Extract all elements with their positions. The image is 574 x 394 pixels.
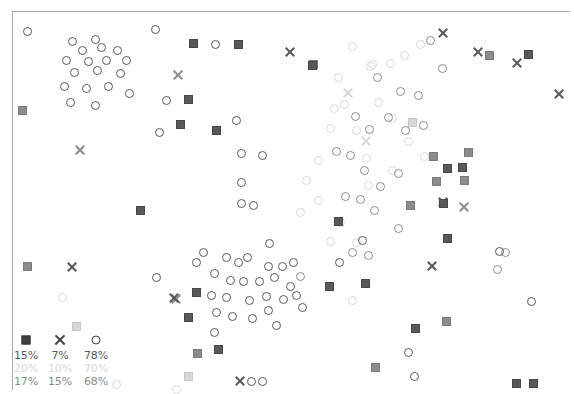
scatter-point-circle: [292, 291, 301, 300]
scatter-point-square: [176, 120, 185, 129]
scatter-point-circle: [289, 258, 298, 267]
scatter-point-circle: [314, 156, 323, 165]
scatter-point-square: [234, 40, 243, 49]
scatter-point-circle: [410, 372, 419, 381]
legend-value: 68%: [81, 375, 111, 388]
scatter-point-circle: [341, 192, 350, 201]
scatter-point-square: [458, 163, 467, 172]
scatter-point-cross: [235, 376, 246, 387]
legend-value: 7%: [45, 349, 75, 362]
scatter-point-circle: [278, 262, 287, 271]
scatter-point-circle: [348, 296, 357, 305]
open-circle-icon: [92, 336, 101, 345]
legend-value: 70%: [81, 362, 111, 375]
scatter-point-circle: [362, 154, 371, 163]
scatter-point-square: [460, 176, 469, 185]
scatter-point-square: [371, 363, 380, 372]
scatter-point-circle: [396, 87, 405, 96]
scatter-point-square: [189, 39, 198, 48]
scatter-point-circle: [212, 308, 221, 317]
scatter-point-cross: [427, 261, 438, 272]
scatter-point-cross: [459, 202, 470, 213]
scatter-point-circle: [386, 59, 395, 68]
scatter-point-square: [193, 349, 202, 358]
scatter-point-circle: [78, 46, 87, 55]
scatter-point-circle: [334, 73, 343, 82]
scatter-point-square: [429, 152, 438, 161]
scatter-point-square: [485, 51, 494, 60]
scatter-point-circle: [286, 282, 295, 291]
scatter-point-square: [411, 324, 420, 333]
scatter-point-circle: [265, 239, 274, 248]
scatter-point-circle: [222, 293, 231, 302]
scatter-point-circle: [192, 258, 201, 267]
scatter-point-square: [214, 345, 223, 354]
scatter-point-cross: [67, 262, 78, 273]
scatter-point-circle: [70, 68, 79, 77]
x-cross-icon: [54, 334, 66, 346]
scatter-point-circle: [351, 112, 360, 121]
scatter-point-square: [334, 217, 343, 226]
legend-value: 17%: [11, 375, 41, 388]
scatter-point-circle: [210, 328, 219, 337]
scatter-point-circle: [116, 69, 125, 78]
scatter-point-cross: [361, 136, 372, 147]
legend-value: 20%: [11, 362, 41, 375]
scatter-point-circle: [84, 57, 93, 66]
scatter-point-cross: [512, 58, 523, 69]
scatter-point-circle: [400, 51, 409, 60]
scatter-point-square: [432, 177, 441, 186]
scatter-point-circle: [222, 253, 231, 262]
scatter-point-circle: [102, 56, 111, 65]
scatter-point-circle: [245, 296, 254, 305]
scatter-point-circle: [199, 248, 208, 257]
scatter-point-circle: [272, 321, 281, 330]
scatter-point-circle: [404, 348, 413, 357]
scatter-point-circle: [373, 73, 382, 82]
scatter-point-circle: [68, 37, 77, 46]
scatter-point-square: [18, 106, 27, 115]
scatter-point-circle: [527, 297, 536, 306]
scatter-point-circle: [207, 291, 216, 300]
scatter-point-circle: [374, 98, 383, 107]
scatter-point-circle: [125, 89, 134, 98]
scatter-point-circle: [226, 276, 235, 285]
scatter-point-circle: [314, 196, 323, 205]
legend-row-dark: 15%7%78%: [12, 349, 132, 362]
scatter-point-circle: [376, 182, 385, 191]
scatter-point-circle: [493, 265, 502, 274]
scatter-point-circle: [228, 312, 237, 321]
scatter-point-circle: [335, 258, 344, 267]
scatter-point-circle: [302, 176, 311, 185]
legend-marker-filled-square: [13, 331, 39, 349]
scatter-point-square: [23, 262, 32, 271]
scatter-point-square: [361, 279, 370, 288]
scatter-point-circle: [296, 272, 305, 281]
scatter-point-circle: [264, 306, 273, 315]
scatter-point-cross: [554, 89, 565, 100]
scatter-point-circle: [346, 151, 355, 160]
legend-marker-open-circle: [83, 331, 109, 349]
legend-value: 10%: [45, 362, 75, 375]
scatter-point-circle: [210, 269, 219, 278]
scatter-point-circle: [113, 46, 122, 55]
legend-row-light: 20%10%70%: [12, 362, 132, 375]
scatter-point-square: [406, 201, 415, 210]
scatter-point-circle: [60, 82, 69, 91]
legend: 15%7%78%20%10%70%17%15%68%: [12, 331, 132, 388]
scatter-point-circle: [332, 147, 341, 156]
scatter-point-circle: [296, 208, 305, 217]
legend-marker-row: [12, 331, 132, 349]
scatter-point-cross: [173, 70, 184, 81]
scatter-point-circle: [419, 121, 428, 130]
filled-square-icon: [22, 336, 31, 345]
scatter-point-circle: [97, 43, 106, 52]
scatter-point-square: [442, 317, 451, 326]
scatter-point-circle: [360, 166, 369, 175]
scatter-point-circle: [348, 248, 357, 257]
scatter-point-circle: [162, 96, 171, 105]
legend-row-mid: 17%15%68%: [12, 375, 132, 388]
scatter-point-circle: [364, 181, 373, 190]
scatter-point-square: [184, 313, 193, 322]
